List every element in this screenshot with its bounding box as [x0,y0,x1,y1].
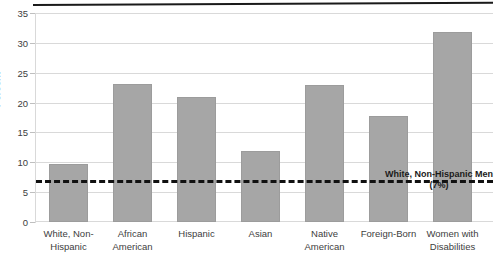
x-tick-label-native-american: Native American [293,228,357,254]
y-axis-tick [30,162,35,163]
benchmark-line-label: White, Non-Hispanic Men (7%) [383,169,495,192]
bar-hispanic [177,97,216,222]
y-axis-tick [30,222,35,223]
bar-african-american [113,84,152,223]
y-axis-tick [30,13,35,14]
x-tick-label-foreign-born: Foreign-Born [357,228,421,241]
y-tick-label: 10 [17,158,28,168]
bar-chart: 35 30 25 20 15 10 5 0 Percent White, Non… [0,0,498,263]
benchmark-label-line2: (7%) [383,180,495,191]
y-axis-tick [30,43,35,44]
y-tick-label: 20 [17,99,28,109]
gridline [36,132,493,133]
bar-women-with-disabilities [433,32,472,222]
gridline [36,103,493,104]
gridline [36,13,493,14]
x-tick-label-white-non-hispanic: White, Non- Hispanic [37,228,101,254]
y-axis-tick-labels: 35 30 25 20 15 10 5 0 [0,0,28,263]
x-axis-tick-labels: White, Non- Hispanic African American Hi… [36,228,493,263]
x-tick-label-hispanic: Hispanic [165,228,229,241]
gridline [36,73,493,74]
y-axis-tick [30,73,35,74]
bar-asian [241,151,280,222]
y-tick-label: 15 [17,128,28,138]
y-tick-label: 30 [17,39,28,49]
y-tick-label: 0 [23,218,28,228]
x-tick-label-asian: Asian [229,228,293,241]
y-axis-tick [30,192,35,193]
x-tick-label-women-with-disabilities: Women with Disabilities [421,228,485,254]
top-rule-divider [33,2,493,6]
x-tick-label-african-american: African American [101,228,165,254]
y-tick-label: 5 [23,188,28,198]
bar-white-non-hispanic [49,164,88,222]
benchmark-label-line1: White, Non-Hispanic Men [383,169,495,180]
y-axis-title: Percent [0,72,2,108]
y-axis-tick [30,132,35,133]
y-tick-label: 35 [17,9,28,19]
bar-native-american [305,85,344,222]
y-tick-label: 25 [17,69,28,79]
gridline [36,43,493,44]
y-axis-tick [30,103,35,104]
